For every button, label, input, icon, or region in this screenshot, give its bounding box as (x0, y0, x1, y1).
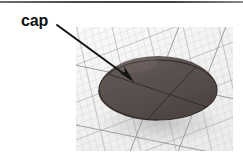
top-rule-divider (0, 1, 243, 3)
figure-root: cap (0, 0, 243, 161)
dome-photograph (76, 27, 233, 151)
photo-panel (76, 27, 233, 151)
callout-label-cap: cap (21, 12, 48, 30)
